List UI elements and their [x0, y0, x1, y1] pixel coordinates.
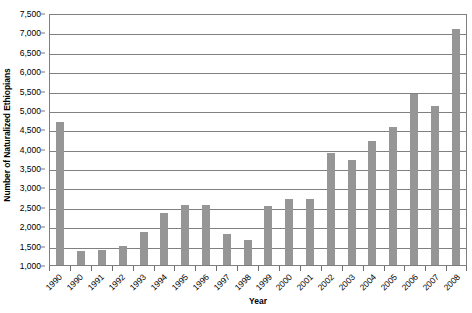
- bar-slot: [92, 15, 113, 265]
- bar-slot: [133, 15, 154, 265]
- y-axis-tick-label: 4,500: [20, 125, 41, 135]
- bar[interactable]: [431, 106, 439, 265]
- bar-slot: [154, 15, 175, 265]
- bar[interactable]: [119, 246, 127, 265]
- y-axis-tick-mark: [41, 72, 45, 73]
- y-axis-tick-mark: [41, 91, 45, 92]
- y-axis-tick-label: 6,500: [20, 48, 41, 58]
- y-axis-tick-label: 3,000: [20, 183, 41, 193]
- bar-slot: [71, 15, 92, 265]
- bar[interactable]: [327, 153, 335, 265]
- bar[interactable]: [389, 127, 397, 265]
- bar[interactable]: [56, 122, 64, 265]
- bar-slot: [320, 15, 341, 265]
- bar[interactable]: [77, 251, 85, 265]
- x-axis-tick-labels: 1990199019911992199319941995199619971998…: [49, 271, 467, 297]
- bar[interactable]: [223, 234, 231, 265]
- y-axis-tick-mark: [41, 207, 45, 208]
- bar[interactable]: [348, 160, 356, 265]
- y-axis-tick-label: 7,000: [20, 28, 41, 38]
- plot-area: [49, 14, 467, 266]
- y-axis-tick-label: 5,500: [20, 87, 41, 97]
- y-axis-title: Number of Naturalized Ethiopians: [0, 0, 14, 270]
- bar[interactable]: [202, 205, 210, 265]
- y-axis-tick-label: 2,000: [20, 222, 41, 232]
- bar[interactable]: [160, 213, 168, 265]
- bar-slot: [445, 15, 466, 265]
- bar-slot: [196, 15, 217, 265]
- bar[interactable]: [264, 206, 272, 265]
- bar-slot: [112, 15, 133, 265]
- y-axis-tick-label: 3,500: [20, 164, 41, 174]
- bar[interactable]: [452, 29, 460, 265]
- bar[interactable]: [410, 94, 418, 265]
- y-axis-tick-mark: [41, 227, 45, 228]
- bar-slot: [50, 15, 71, 265]
- y-axis-tick-mark: [41, 14, 45, 15]
- bar[interactable]: [98, 250, 106, 266]
- bar-slot: [279, 15, 300, 265]
- bar[interactable]: [306, 199, 314, 265]
- bar-slot: [175, 15, 196, 265]
- bar[interactable]: [368, 141, 376, 265]
- y-axis-tick-label: 7,500: [20, 9, 41, 19]
- y-axis-tick-label: 1,500: [20, 242, 41, 252]
- y-axis-tick-mark: [41, 169, 45, 170]
- y-axis-tick-mark: [41, 33, 45, 34]
- y-axis-tick-mark: [41, 266, 45, 267]
- bar-slot: [216, 15, 237, 265]
- bar-slot: [300, 15, 321, 265]
- y-axis-tick-mark: [41, 246, 45, 247]
- bar-slot: [404, 15, 425, 265]
- bar-slot: [424, 15, 445, 265]
- y-axis-tick-mark: [41, 130, 45, 131]
- y-axis-tick-mark: [41, 188, 45, 189]
- y-axis-title-label: Number of Naturalized Ethiopians: [2, 68, 12, 201]
- y-axis-tick-mark: [41, 149, 45, 150]
- y-axis-tick-mark: [41, 52, 45, 53]
- x-axis-title: Year: [49, 296, 467, 306]
- y-axis-tick-label: 2,500: [20, 203, 41, 213]
- x-axis-label-slot: 2008: [446, 271, 467, 297]
- y-axis-tick-label: 5,000: [20, 106, 41, 116]
- bars-container: [50, 15, 466, 265]
- bar[interactable]: [140, 232, 148, 265]
- bar-chart: Number of Naturalized Ethiopians 7,5007,…: [0, 0, 472, 313]
- bar[interactable]: [285, 199, 293, 265]
- bar[interactable]: [244, 240, 252, 265]
- y-axis-tick-label: 6,000: [20, 67, 41, 77]
- y-axis-tick-mark: [41, 110, 45, 111]
- y-axis-tick-label: 4,000: [20, 145, 41, 155]
- chart-title: [49, 0, 467, 2]
- bar-slot: [258, 15, 279, 265]
- bar-slot: [341, 15, 362, 265]
- bar-slot: [237, 15, 258, 265]
- bar-slot: [362, 15, 383, 265]
- bar-slot: [383, 15, 404, 265]
- y-axis-tick-label: 1,000: [20, 261, 41, 271]
- y-axis-tick-labels: 7,5007,0006,5006,0005,5005,0004,5004,000…: [14, 14, 45, 266]
- x-axis-tick-label-text: 1990: [44, 272, 64, 292]
- bar[interactable]: [181, 205, 189, 265]
